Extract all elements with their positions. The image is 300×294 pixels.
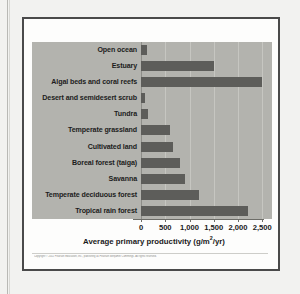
bar-row [141,74,272,90]
x-tick-label: 0 [139,223,143,232]
bar-row [141,42,272,58]
bar [141,206,248,216]
bar [141,158,180,168]
bar [141,190,199,200]
bar [141,45,147,55]
bar [141,142,173,152]
x-tick-label: 2,500 [253,223,272,232]
bar-row [141,155,272,171]
bar-row [141,122,272,138]
x-tick-mark [214,219,215,222]
bar-row [141,203,272,219]
chart-plot-area: Open oceanEstuaryAlgal beds and coral re… [32,42,272,219]
x-tick-label: 1,500 [204,223,223,232]
bar-row [141,58,272,74]
x-tick-mark [262,219,263,222]
category-label: Tundra [114,106,137,122]
x-tick-mark [165,219,166,222]
x-tick-label: 2,000 [229,223,248,232]
bar [141,174,185,184]
page-gutter-rule [7,0,8,294]
bar [141,125,170,135]
page-gutter-rule-secondary [9,0,10,294]
bar-row [141,139,272,155]
category-label: Algal beds and coral reefs [51,74,137,90]
bar-row [141,171,272,187]
figure-frame: Open oceanEstuaryAlgal beds and coral re… [22,17,280,271]
bar-row [141,187,272,203]
category-label-column: Open oceanEstuaryAlgal beds and coral re… [32,42,139,219]
bar [141,93,145,103]
bar [141,61,214,71]
x-axis-line [133,219,264,220]
category-label: Savanna [109,171,137,187]
bar [141,109,148,119]
x-tick-label: 500 [159,223,172,232]
category-label: Open ocean [97,42,137,58]
category-label: Cultivated land [88,139,137,155]
x-tick-mark [238,219,239,222]
bar-row [141,106,272,122]
copyright-text: Copyright © 2011 Pearson Education, Inc.… [34,255,264,258]
category-label: Temperate grassland [68,122,137,138]
figure-inner-area: Open oceanEstuaryAlgal beds and coral re… [24,19,278,269]
bar-row [141,90,272,106]
bars-region [141,42,272,219]
x-axis-title: Average primary productivity (g/m2/yr) [32,235,276,246]
category-label: Boreal forest (taiga) [72,155,137,171]
category-label: Tropical rain forest [75,203,137,219]
x-tick-label: 1,000 [180,223,199,232]
x-tick-mark [141,219,142,222]
category-label: Estuary [112,58,137,74]
category-label: Desert and semidesert scrub [42,90,137,106]
category-label: Temperate deciduous forest [45,187,137,203]
x-axis-title-superscript: 2 [210,235,213,241]
bar [141,77,262,87]
x-tick-mark [190,219,191,222]
copyright-divider [32,253,268,254]
